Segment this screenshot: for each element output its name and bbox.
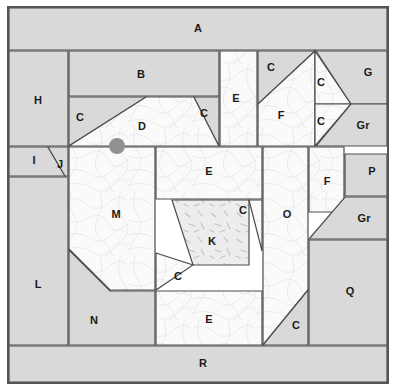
piece-label-f2: F <box>324 175 331 187</box>
piece-label-e2: E <box>205 165 212 177</box>
piece-label-c5: C <box>317 115 325 127</box>
pivot-point-marker <box>109 138 125 154</box>
piece-label-f1: F <box>278 109 285 121</box>
piece-label-a: A <box>194 22 202 34</box>
piece-label-k: K <box>208 235 216 247</box>
piece-label-c7: C <box>174 270 182 282</box>
quilt-block-svg: AHBCDCECFCCGGrIJMEKCCEOCFPGrQLNR <box>0 0 397 391</box>
piece-label-n: N <box>90 314 98 326</box>
piece-label-c4: C <box>317 76 325 88</box>
quilt-piece-r[interactable] <box>9 346 387 382</box>
piece-label-h: H <box>34 94 42 106</box>
piece-label-c3: C <box>267 61 275 73</box>
piece-label-b: B <box>137 68 145 80</box>
piece-label-p: P <box>368 165 375 177</box>
piece-label-j: J <box>57 158 63 170</box>
piece-label-i: I <box>32 154 35 166</box>
piece-label-e3: E <box>205 313 212 325</box>
piece-label-c2: C <box>200 107 208 119</box>
piece-label-gr2: Gr <box>358 212 372 224</box>
piece-label-c8: C <box>292 319 300 331</box>
piece-label-o: O <box>283 208 292 220</box>
quilt-piece-p[interactable] <box>345 154 387 196</box>
quilt-diagram-canvas: AHBCDCECFCCGGrIJMEKCCEOCFPGrQLNR <box>0 0 397 391</box>
piece-label-d: D <box>138 120 146 132</box>
piece-label-gr1: Gr <box>357 119 371 131</box>
piece-label-r: R <box>199 357 207 369</box>
piece-label-c6: C <box>239 204 247 216</box>
piece-label-q: Q <box>346 285 355 297</box>
quilt-piece-l[interactable] <box>9 177 68 345</box>
quilt-pieces-layer <box>9 8 387 382</box>
piece-label-l: L <box>35 278 42 290</box>
piece-label-m: M <box>111 208 120 220</box>
piece-label-g: G <box>364 66 373 78</box>
piece-label-e1: E <box>232 92 239 104</box>
piece-label-c1: C <box>76 111 84 123</box>
